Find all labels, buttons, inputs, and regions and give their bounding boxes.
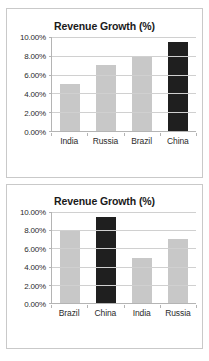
x-axis-label-brazil: Brazil — [124, 133, 160, 150]
plot-wrapper: 10.00%8.00%6.00%4.00%2.00%0.00% BrazilCh… — [7, 212, 202, 322]
y-axis-tick-label: 2.00% — [24, 281, 46, 290]
y-axis-tick-label: 0.00% — [24, 300, 46, 309]
y-axis-tick-label: 6.00% — [24, 71, 46, 80]
gridline — [52, 230, 196, 231]
x-axis-tick-mark — [51, 133, 52, 136]
x-axis-label-china: China — [160, 133, 196, 150]
x-axis-label-china: China — [87, 305, 123, 322]
chart-sheet: Revenue Growth (%) 10.00%8.00%6.00%4.00%… — [0, 0, 209, 361]
gridline — [52, 93, 196, 94]
y-axis-tick-mark — [49, 285, 52, 286]
y-axis-tick-label: 2.00% — [24, 109, 46, 118]
plot-area — [51, 37, 196, 132]
y-axis-tick-mark — [49, 230, 52, 231]
gridline — [52, 56, 196, 57]
y-axis: 10.00%8.00%6.00%4.00%2.00%0.00% — [7, 212, 49, 322]
gridline — [52, 212, 196, 213]
y-axis-tick-label: 8.00% — [24, 226, 46, 235]
x-axis: BrazilChinaIndiaRussia — [51, 305, 196, 322]
y-axis-tick-mark — [49, 75, 52, 76]
y-axis-tick-mark — [49, 56, 52, 57]
x-axis: IndiaRussiaBrazilChina — [51, 133, 196, 150]
gridline — [52, 285, 196, 286]
x-axis-tick-mark — [51, 305, 52, 308]
x-axis-tick-mark — [160, 133, 161, 136]
gridline — [52, 112, 196, 113]
y-axis-tick-mark — [49, 112, 52, 113]
y-axis-tick-label: 0.00% — [24, 128, 46, 137]
plot-area — [51, 212, 196, 304]
y-axis-tick-label: 8.00% — [24, 52, 46, 61]
chart-title: Revenue Growth (%) — [7, 195, 202, 208]
x-axis-tick-mark — [196, 305, 197, 308]
chart-panel-bottom: Revenue Growth (%) 10.00%8.00%6.00%4.00%… — [6, 184, 203, 349]
bar-slot — [124, 212, 160, 303]
y-axis-tick-label: 10.00% — [20, 208, 46, 217]
y-axis-tick-mark — [49, 37, 52, 38]
gridline — [52, 75, 196, 76]
bar-india[interactable] — [60, 84, 80, 131]
y-axis-tick-mark — [49, 131, 52, 132]
y-axis-tick-mark — [49, 248, 52, 249]
x-axis-tick-mark — [87, 305, 88, 308]
y-axis-tick-mark — [49, 93, 52, 94]
x-axis-tick-mark — [196, 133, 197, 136]
x-axis-label-russia: Russia — [87, 133, 123, 150]
x-axis-tick-mark — [124, 133, 125, 136]
bar-slot — [124, 37, 160, 131]
plot-wrapper: 10.00%8.00%6.00%4.00%2.00%0.00% IndiaRus… — [7, 37, 202, 150]
bar-slot — [88, 37, 124, 131]
x-axis-label-india: India — [124, 305, 160, 322]
gridline — [52, 267, 196, 268]
y-axis-tick-mark — [49, 267, 52, 268]
y-axis-tick-label: 4.00% — [24, 90, 46, 99]
chart-panel-top: Revenue Growth (%) 10.00%8.00%6.00%4.00%… — [6, 8, 203, 178]
gridline — [52, 248, 196, 249]
x-axis-label-india: India — [51, 133, 87, 150]
bar-slot — [52, 37, 88, 131]
gridline — [52, 303, 196, 304]
y-axis-tick-label: 10.00% — [20, 33, 46, 42]
bar-india[interactable] — [132, 258, 152, 304]
bar-group — [52, 37, 196, 131]
bar-slot — [160, 37, 196, 131]
y-axis-tick-mark — [49, 212, 52, 213]
y-axis-tick-label: 4.00% — [24, 263, 46, 272]
bar-group — [52, 212, 196, 303]
x-axis-tick-mark — [124, 305, 125, 308]
y-axis: 10.00%8.00%6.00%4.00%2.00%0.00% — [7, 37, 49, 150]
x-axis-label-russia: Russia — [160, 305, 196, 322]
bar-slot — [88, 212, 124, 303]
x-axis-label-brazil: Brazil — [51, 305, 87, 322]
gridline — [52, 131, 196, 132]
y-axis-tick-mark — [49, 303, 52, 304]
x-axis-tick-mark — [87, 133, 88, 136]
x-axis-tick-mark — [160, 305, 161, 308]
y-axis-tick-label: 6.00% — [24, 244, 46, 253]
gridline — [52, 37, 196, 38]
bar-slot — [52, 212, 88, 303]
chart-title: Revenue Growth (%) — [7, 20, 202, 33]
bar-slot — [160, 212, 196, 303]
